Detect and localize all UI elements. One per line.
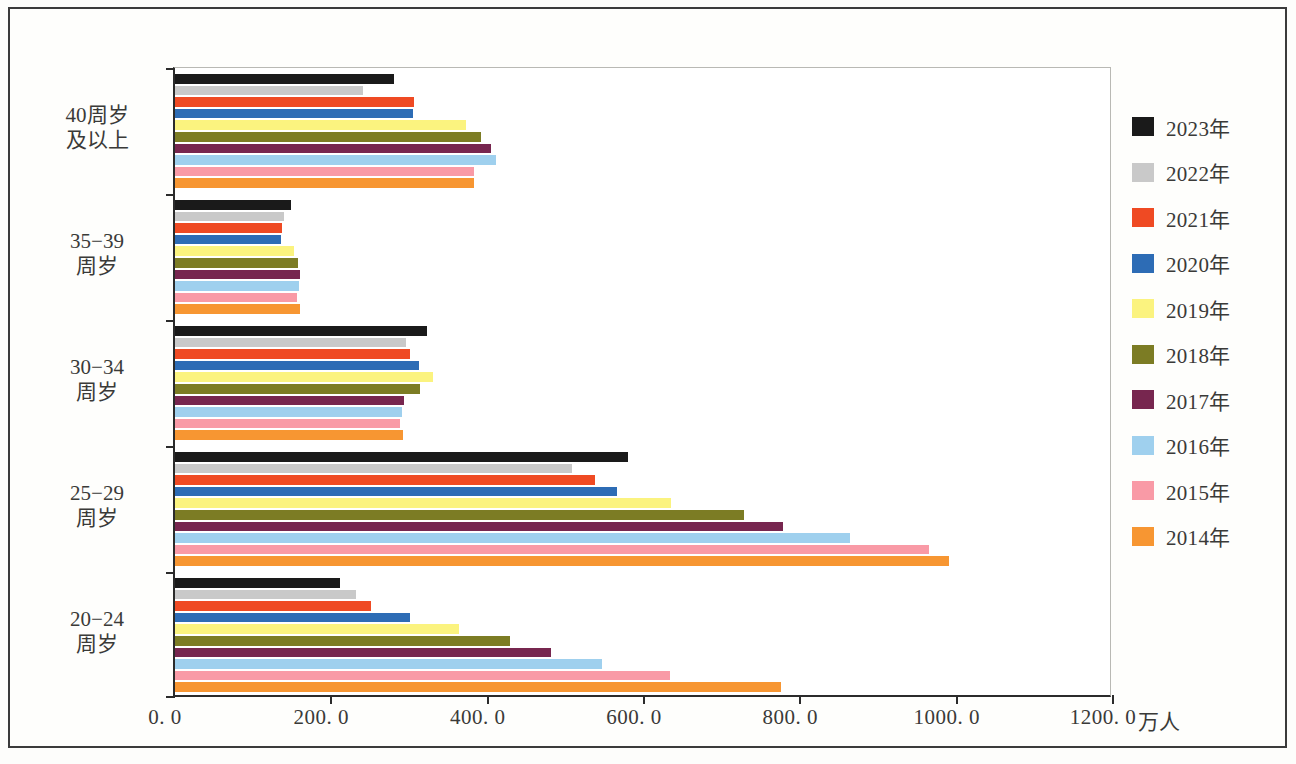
bar (175, 167, 474, 177)
legend-swatch-icon (1132, 163, 1154, 182)
category-label: 30−34 周岁 (32, 355, 162, 405)
bar (175, 682, 781, 692)
category-axis-labels: 40周岁 及以上35−39 周岁30−34 周岁25−29 周岁20−24 周岁 (32, 9, 162, 764)
x-tick (799, 695, 801, 704)
legend-swatch-icon (1132, 254, 1154, 273)
bar (175, 293, 297, 303)
group-tick (166, 68, 175, 70)
x-tick-label: 1200. 0 (1070, 705, 1137, 730)
legend-swatch-icon (1132, 436, 1154, 455)
bar (175, 86, 363, 96)
legend-item[interactable]: 2017年 (1132, 377, 1292, 423)
bar (175, 246, 294, 256)
legend-swatch-icon (1132, 208, 1154, 227)
legend-swatch-icon (1132, 527, 1154, 546)
bar (175, 475, 595, 485)
bar (175, 223, 282, 233)
bar (175, 556, 949, 566)
bar (175, 396, 404, 406)
x-tick (643, 695, 645, 704)
x-tick (330, 695, 332, 704)
bar (175, 132, 481, 142)
group-tick (166, 572, 175, 574)
group-tick (166, 320, 175, 322)
legend-label: 2023年 (1166, 112, 1231, 142)
bar (175, 200, 291, 210)
legend-item[interactable]: 2016年 (1132, 423, 1292, 469)
bar (175, 304, 300, 314)
x-tick-label: 800. 0 (763, 705, 819, 730)
legend-item[interactable]: 2020年 (1132, 241, 1292, 287)
legend-label: 2022年 (1166, 157, 1231, 187)
bar (175, 361, 419, 371)
bar (175, 120, 466, 130)
bar (175, 235, 281, 245)
bar (175, 326, 427, 336)
legend-swatch-icon (1132, 390, 1154, 409)
legend-label: 2018年 (1166, 339, 1231, 369)
legend-label: 2021年 (1166, 203, 1231, 233)
legend-swatch-icon (1132, 299, 1154, 318)
x-axis-unit-label: 万人 (1138, 705, 1180, 735)
legend-item[interactable]: 2014年 (1132, 514, 1292, 560)
group-tick (166, 696, 175, 698)
bar (175, 452, 628, 462)
bar (175, 338, 406, 348)
legend-item[interactable]: 2019年 (1132, 286, 1292, 332)
bar (175, 510, 744, 520)
category-label: 25−29 周岁 (32, 481, 162, 531)
legend-item[interactable]: 2015年 (1132, 468, 1292, 514)
x-tick-label: 200. 0 (294, 705, 350, 730)
bar (175, 624, 459, 634)
outer-frame: 40周岁 及以上35−39 周岁30−34 周岁25−29 周岁20−24 周岁… (8, 7, 1287, 748)
x-tick (956, 695, 958, 704)
bar (175, 613, 410, 623)
bar (175, 648, 551, 658)
category-label: 40周岁 及以上 (32, 103, 162, 153)
bar (175, 522, 783, 532)
legend-label: 2017年 (1166, 385, 1231, 415)
legend-item[interactable]: 2022年 (1132, 150, 1292, 196)
bar (175, 281, 299, 291)
chart-legend: 2023年2022年2021年2020年2019年2018年2017年2016年… (1132, 104, 1292, 559)
bar (175, 270, 300, 280)
category-label: 35−39 周岁 (32, 229, 162, 279)
legend-label: 2020年 (1166, 248, 1231, 278)
legend-swatch-icon (1132, 117, 1154, 136)
legend-swatch-icon (1132, 345, 1154, 364)
plot-area (173, 67, 1111, 697)
bar (175, 97, 414, 107)
bar (175, 349, 410, 359)
legend-item[interactable]: 2018年 (1132, 332, 1292, 378)
bar (175, 258, 298, 268)
bar (175, 155, 496, 165)
legend-label: 2016年 (1166, 430, 1231, 460)
x-tick (1112, 695, 1114, 704)
bar (175, 578, 340, 588)
bar (175, 419, 400, 429)
legend-item[interactable]: 2023年 (1132, 104, 1292, 150)
bar (175, 533, 850, 543)
group-tick (166, 446, 175, 448)
bar (175, 464, 572, 474)
group-tick (166, 194, 175, 196)
bar (175, 487, 617, 497)
bar (175, 671, 670, 681)
bar (175, 636, 510, 646)
legend-label: 2015年 (1166, 476, 1231, 506)
bar (175, 545, 929, 555)
bar (175, 407, 402, 417)
category-label: 20−24 周岁 (32, 607, 162, 657)
legend-label: 2014年 (1166, 521, 1231, 551)
bar (175, 144, 491, 154)
x-tick-label: 600. 0 (606, 705, 662, 730)
x-tick-label: 400. 0 (450, 705, 506, 730)
x-tick-label: 1000. 0 (913, 705, 980, 730)
legend-item[interactable]: 2021年 (1132, 195, 1292, 241)
x-tick-label: 0. 0 (148, 705, 182, 730)
bar (175, 659, 602, 669)
bar (175, 74, 394, 84)
bar (175, 372, 433, 382)
bar (175, 178, 474, 188)
legend-swatch-icon (1132, 481, 1154, 500)
